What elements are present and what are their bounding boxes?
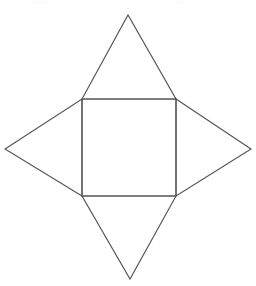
top-triangle-face xyxy=(82,15,176,99)
figure-canvas xyxy=(0,0,256,286)
base-square-face xyxy=(82,99,176,196)
left-triangle-face xyxy=(5,99,82,196)
bottom-triangle-face xyxy=(82,196,176,279)
square-pyramid-net-svg xyxy=(0,0,256,286)
right-triangle-face xyxy=(176,99,251,196)
